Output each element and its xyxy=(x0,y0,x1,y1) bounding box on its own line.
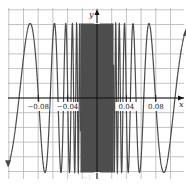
x-tick-label: 0.04 xyxy=(119,103,135,111)
y-tick-label: −1 xyxy=(82,174,92,182)
curve-left-arrow-icon xyxy=(5,160,11,167)
sin-one-over-x-plot: yx −0.08−0.040.040.081−1 xyxy=(0,0,186,187)
x-axis-label: x xyxy=(179,100,184,109)
y-tick-label: 1 xyxy=(88,17,92,25)
curve-right-arrow-icon xyxy=(183,29,186,36)
x-tick-label: 0.08 xyxy=(148,103,164,111)
x-tick-label: −0.08 xyxy=(27,103,48,111)
x-tick-label: −0.04 xyxy=(57,103,79,111)
